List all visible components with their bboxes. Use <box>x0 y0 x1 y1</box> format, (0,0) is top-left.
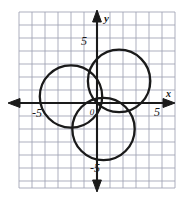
y-axis-positive-tick-label: 5 <box>81 34 87 48</box>
x-axis-label: x <box>165 88 171 99</box>
y-axis-negative-tick-label: -5 <box>90 161 100 175</box>
x-axis-right-arrow <box>163 99 175 108</box>
x-axis-negative-tick-label: -5 <box>32 106 42 120</box>
origin-label: 0 <box>90 107 95 117</box>
graph-canvas: y x 5 -5 5 -5 0 <box>0 0 182 200</box>
y-axis-bottom-arrow <box>93 180 102 192</box>
y-axis-label: y <box>102 12 109 24</box>
circle-group <box>40 50 150 161</box>
x-axis-positive-tick-label: 5 <box>154 105 160 119</box>
coordinate-plane-figure: y x 5 -5 5 -5 0 <box>0 0 182 200</box>
x-axis-left-arrow <box>8 99 20 108</box>
